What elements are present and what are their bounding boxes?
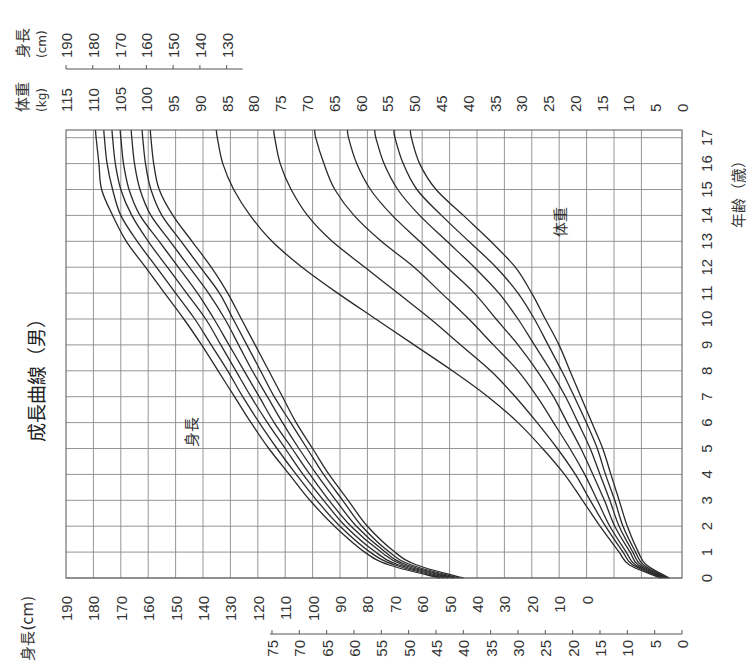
age-tick-label: 14 <box>698 207 715 224</box>
weight-tick-label-top: 100 <box>138 87 155 112</box>
weight-tick-label-top: 5 <box>647 104 664 112</box>
age-tick-label: 7 <box>698 393 715 401</box>
height-curve-25p <box>131 130 455 578</box>
weight-axis-title-right: 体重 <box>14 82 32 112</box>
height-curve-3p <box>150 130 463 578</box>
age-tick-label: 9 <box>698 341 715 349</box>
weight-tick-label-top: 80 <box>245 95 262 112</box>
height-tick-label-top: 160 <box>138 33 155 58</box>
height-tick-label: 190 <box>58 596 75 621</box>
age-tick-label: 17 <box>698 129 715 146</box>
weight-tick-label-top: 10 <box>620 95 637 112</box>
weight-tick-label-bottom: 70 <box>291 640 308 657</box>
weight-tick-label-top: 30 <box>513 95 530 112</box>
weight-tick-label-top: 40 <box>460 95 477 112</box>
height-tick-label-top: 130 <box>219 33 236 58</box>
weight-curves-annotation: 体重 <box>552 207 570 237</box>
age-tick-label: 16 <box>698 155 715 172</box>
weight-tick-label-top: 70 <box>299 95 316 112</box>
weight-tick-label-top: 50 <box>406 95 423 112</box>
weight-tick-label-bottom: 40 <box>455 640 472 657</box>
height-curve-97p <box>96 130 441 578</box>
weight-axis-unit-right: (kg) <box>35 88 49 112</box>
weight-tick-label-top: 65 <box>326 95 343 112</box>
height-tick-label: 0 <box>579 596 596 604</box>
age-tick-label: 2 <box>698 522 715 530</box>
weight-tick-label-bottom: 25 <box>537 640 554 657</box>
age-tick-label: 6 <box>698 418 715 426</box>
growth-chart: 1901801701601501401301201101009080706050… <box>0 0 752 664</box>
height-curves-annotation: 身長 <box>183 417 201 447</box>
weight-tick-label-bottom: 20 <box>565 640 582 657</box>
weight-tick-label-bottom: 0 <box>674 640 691 648</box>
height-tick-label-top: 150 <box>165 33 182 58</box>
weight-tick-label-bottom: 45 <box>428 640 445 657</box>
weight-tick-label-top: 95 <box>165 95 182 112</box>
age-tick-label: 8 <box>698 367 715 375</box>
weight-tick-label-top: 55 <box>379 95 396 112</box>
height-tick-label: 30 <box>496 596 513 613</box>
weight-tick-label-bottom: 5 <box>647 640 664 648</box>
weight-tick-label-top: 105 <box>112 87 129 112</box>
age-tick-label: 5 <box>698 444 715 452</box>
age-tick-label: 11 <box>698 285 715 301</box>
weight-tick-label-bottom: 15 <box>592 640 609 657</box>
height-axis-title-right: 身長 <box>14 28 32 58</box>
height-tick-label-top: 180 <box>85 33 102 58</box>
height-tick-label: 90 <box>332 596 349 613</box>
weight-tick-label-bottom: 65 <box>319 640 336 657</box>
weight-tick-label-top: 85 <box>219 95 236 112</box>
height-curve-90p <box>104 130 444 578</box>
height-tick-label: 60 <box>414 596 431 613</box>
age-tick-label: 12 <box>698 259 715 276</box>
height-tick-label: 110 <box>277 596 294 620</box>
weight-tick-label-top: 35 <box>487 95 504 112</box>
height-curve-50p <box>120 130 452 578</box>
height-curve-10p <box>142 130 459 578</box>
chart-title: 成長曲線（男） <box>26 309 48 442</box>
age-tick-label: 0 <box>698 574 715 582</box>
weight-tick-label-bottom: 60 <box>346 640 363 657</box>
weight-tick-label-top: 75 <box>272 95 289 112</box>
height-tick-label-top: 170 <box>112 33 129 58</box>
height-tick-label: 10 <box>551 596 568 613</box>
weight-curve-10p <box>394 130 668 578</box>
chart-curves <box>96 130 670 578</box>
weight-tick-label-top: 20 <box>567 95 584 112</box>
weight-curve-97p <box>216 130 660 578</box>
height-tick-label: 170 <box>113 596 130 621</box>
weight-tick-label-bottom: 35 <box>483 640 500 657</box>
age-tick-label: 15 <box>698 181 715 198</box>
height-tick-label: 100 <box>305 596 322 621</box>
weight-tick-label-bottom: 10 <box>619 640 636 657</box>
weight-tick-label-bottom: 75 <box>264 640 281 657</box>
weight-tick-label-top: 25 <box>540 95 557 112</box>
height-tick-label: 50 <box>442 596 459 613</box>
weight-tick-label-top: 90 <box>192 95 209 112</box>
height-tick-label: 20 <box>524 596 541 613</box>
age-tick-label: 10 <box>698 311 715 328</box>
height-tick-label: 80 <box>359 596 376 613</box>
weight-tick-label-top: 60 <box>353 95 370 112</box>
height-tick-label: 130 <box>222 596 239 621</box>
height-tick-label-top: 140 <box>192 33 209 58</box>
height-tick-label: 160 <box>140 596 157 621</box>
height-tick-label: 70 <box>387 596 404 613</box>
weight-tick-label-bottom: 30 <box>510 640 527 657</box>
age-tick-label: 13 <box>698 233 715 250</box>
weight-tick-label-top: 115 <box>58 88 75 112</box>
age-axis-title: 年齢（歳） <box>730 153 748 228</box>
age-tick-label: 4 <box>698 470 715 478</box>
weight-tick-label-top: 45 <box>433 95 450 112</box>
age-tick-label: 3 <box>698 496 715 504</box>
height-tick-label: 40 <box>469 596 486 613</box>
age-tick-label: 1 <box>698 548 715 556</box>
height-axis-unit-right: (cm) <box>35 30 49 58</box>
weight-tick-label-top: 110 <box>85 88 102 112</box>
height-tick-label: 180 <box>85 596 102 621</box>
height-tick-label: 120 <box>250 596 267 621</box>
height-axis-title-left: 身長(cm) <box>19 596 37 661</box>
weight-tick-label-bottom: 55 <box>373 640 390 657</box>
height-tick-label: 140 <box>195 596 212 621</box>
weight-tick-label-top: 15 <box>594 95 611 112</box>
